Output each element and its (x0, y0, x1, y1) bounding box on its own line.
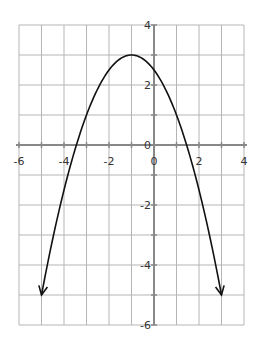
x-tick-label: 2 (196, 155, 203, 168)
x-tick-label: -4 (59, 155, 70, 168)
grid-lines (19, 25, 244, 325)
y-tick-label: 0 (144, 139, 151, 152)
x-tick-label: -2 (104, 155, 115, 168)
parabola-chart: -6-4-2024420-2-4-6 (0, 0, 258, 345)
y-tick-label: -6 (140, 319, 151, 332)
y-tick-label: -2 (140, 199, 151, 212)
x-tick-label: 0 (151, 155, 158, 168)
x-tick-label: 4 (241, 155, 248, 168)
y-tick-label: 4 (144, 19, 151, 32)
x-tick-label: -6 (14, 155, 25, 168)
y-tick-label: 2 (144, 79, 151, 92)
y-tick-label: -4 (140, 259, 151, 272)
